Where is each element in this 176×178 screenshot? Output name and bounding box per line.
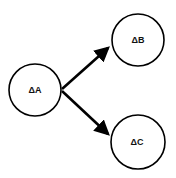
node-a-label: ΔA (29, 85, 42, 95)
node-a: ΔA (9, 64, 61, 116)
edge-a-to-c (62, 91, 108, 134)
edge-a-to-b (62, 48, 108, 89)
node-b: ΔB (112, 14, 164, 66)
node-c: ΔC (111, 115, 165, 169)
node-c-label: ΔC (131, 137, 144, 147)
node-b-label: ΔB (132, 35, 145, 45)
diagram-canvas: ΔA ΔB ΔC (0, 0, 176, 178)
